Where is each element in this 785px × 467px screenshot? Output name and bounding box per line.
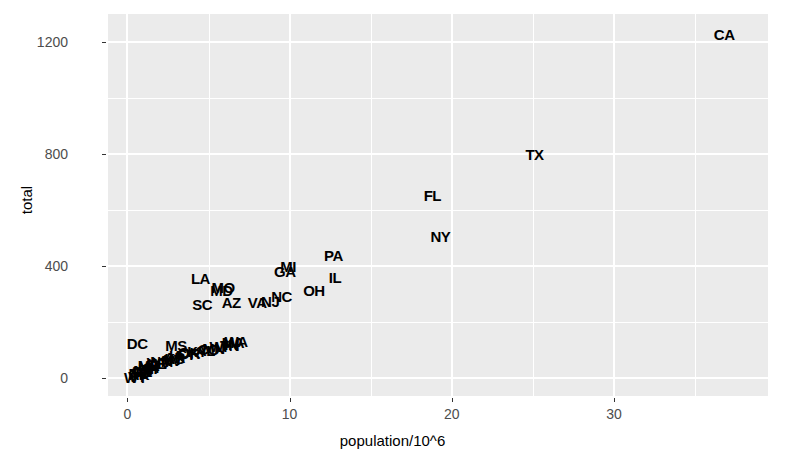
x-tick-mark — [290, 398, 291, 402]
gridline-horizontal-major — [108, 265, 768, 267]
gridline-horizontal-major — [108, 377, 768, 379]
gridline-vertical-major — [613, 14, 615, 396]
x-axis-title: population/10^6 — [0, 432, 785, 449]
data-point-label: GA — [274, 264, 296, 279]
x-tick-label: 20 — [444, 406, 460, 422]
gridline-vertical-minor — [695, 14, 696, 396]
data-point-label: FL — [424, 187, 441, 202]
x-tick-label: 0 — [124, 406, 132, 422]
data-point-label: CA — [714, 26, 735, 41]
scatter-plot-figure: CATXFLNYPAMIGAILLAMOMDOHNCNJVAAZSCWAMAIN… — [0, 0, 785, 467]
gridline-horizontal-minor — [108, 98, 768, 99]
data-point-label: SC — [192, 296, 212, 311]
gridline-vertical-minor — [371, 14, 372, 396]
gridline-horizontal-major — [108, 41, 768, 43]
x-tick-mark — [614, 398, 615, 402]
y-tick-label: 0 — [60, 370, 68, 386]
data-point-label: PA — [324, 247, 343, 262]
x-tick-label: 10 — [282, 406, 298, 422]
data-point-label: LA — [191, 270, 210, 285]
x-tick-mark — [452, 398, 453, 402]
data-point-label: IL — [329, 270, 341, 285]
gridline-vertical-major — [451, 14, 453, 396]
data-point-label: OH — [303, 283, 325, 298]
x-tick-label: 30 — [606, 406, 622, 422]
data-point-label: WY — [124, 369, 147, 384]
x-tick-mark — [127, 398, 128, 402]
y-tick-mark — [102, 42, 106, 43]
gridline-horizontal-major — [108, 153, 768, 155]
data-point-label: AZ — [222, 295, 241, 310]
data-point-label: DC — [127, 336, 148, 351]
y-tick-mark — [102, 378, 106, 379]
data-point-label: VA — [248, 294, 267, 309]
y-axis-title: total — [0, 160, 226, 240]
data-point-label: NY — [431, 228, 451, 243]
gridline-horizontal-minor — [108, 322, 768, 323]
y-tick-mark — [102, 266, 106, 267]
y-tick-label: 400 — [45, 258, 68, 274]
y-tick-label: 1200 — [37, 34, 68, 50]
data-point-label: TX — [525, 146, 543, 161]
gridline-vertical-minor — [533, 14, 534, 396]
y-tick-mark — [102, 154, 106, 155]
gridline-vertical-major — [289, 14, 291, 396]
